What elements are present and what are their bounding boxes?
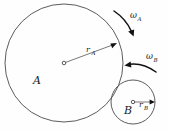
- omega-a-label: ω A: [130, 10, 142, 22]
- radius-label-b-subscript: B: [143, 105, 148, 111]
- radius-label-a-base: r: [86, 45, 91, 54]
- radius-label-a-subscript: A: [91, 50, 96, 56]
- diagram-canvas: A B r A r B ω A ω B: [0, 0, 169, 131]
- omega-b-label: ω B: [146, 51, 158, 63]
- omega-a-symbol: ω: [130, 10, 137, 20]
- omega-b-subscript: B: [153, 57, 158, 63]
- omega-a-arrowhead: [128, 30, 134, 37]
- omega-b-arc: [130, 64, 156, 72]
- body-label-b: B: [123, 104, 132, 117]
- omega-a-subscript: A: [137, 16, 142, 22]
- physics-diagram-figure: A B r A r B ω A ω B: [0, 0, 169, 131]
- omega-b-symbol: ω: [146, 51, 153, 61]
- omega-b-arrowhead: [124, 62, 131, 68]
- omega-a-arc: [114, 11, 131, 31]
- radius-b-arrowhead: [150, 100, 155, 105]
- body-label-a: A: [32, 74, 41, 87]
- circle-a-center-marker: [62, 61, 66, 65]
- radius-a-arrowhead: [110, 43, 117, 48]
